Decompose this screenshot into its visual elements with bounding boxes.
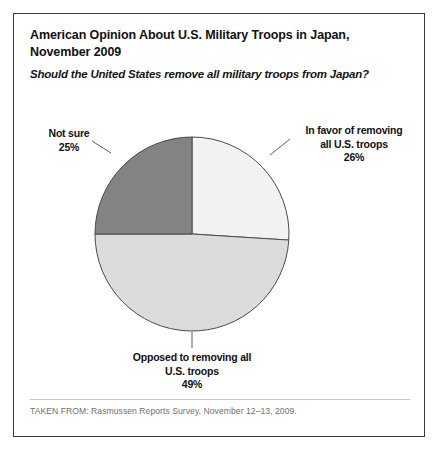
pie-label-opposed-percent: 49% (96, 378, 288, 392)
pie-slice-opposed-shape (95, 234, 289, 331)
source-divider (30, 399, 410, 400)
pie-label-in-favor: In favor of removing all U.S. troops 26% (290, 124, 418, 165)
pie-slice-in-favor-shape (192, 137, 289, 240)
pie-label-opposed: Opposed to removing all U.S. troops 49% (96, 351, 288, 392)
pie-label-in-favor-line1: In favor of removing (290, 124, 418, 138)
pie-label-opposed-line2: U.S. troops (96, 365, 288, 379)
pie-label-not-sure-text: Not sure (28, 127, 110, 141)
pie-label-in-favor-percent: 26% (290, 151, 418, 165)
pie-slices (95, 137, 289, 331)
pie-label-in-favor-line2: all U.S. troops (290, 138, 418, 152)
pie-label-opposed-line1: Opposed to removing all (96, 351, 288, 365)
pie-label-not-sure-percent: 25% (28, 141, 110, 155)
pie-label-not-sure: Not sure 25% (28, 127, 110, 154)
leader-line-in-favor (270, 139, 290, 155)
source-note: TAKEN FROM: Rasmussen Reports Survey, No… (30, 406, 410, 416)
figure-frame: American Opinion About U.S. Military Tro… (13, 13, 425, 437)
